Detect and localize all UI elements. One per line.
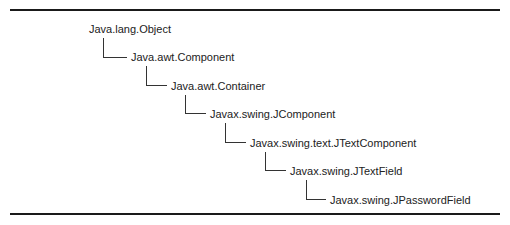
node-javax-swing-jpasswordfield: Javax.swing.JPasswordField — [330, 193, 471, 207]
connector-vertical-5 — [265, 152, 266, 171]
node-java-awt-container: Java.awt.Container — [171, 79, 265, 93]
connector-vertical-1 — [103, 38, 104, 58]
connector-horizontal-3 — [185, 113, 206, 114]
connector-horizontal-6 — [306, 199, 326, 200]
connector-horizontal-2 — [146, 85, 167, 86]
connector-horizontal-4 — [225, 142, 246, 143]
top-rule — [10, 9, 500, 11]
connector-vertical-2 — [146, 66, 147, 86]
node-javax-swing-text-jtextcomponent: Javax.swing.text.JTextComponent — [250, 136, 416, 150]
node-java-awt-component: Java.awt.Component — [131, 50, 234, 64]
node-javax-swing-jcomponent: Javax.swing.JComponent — [210, 107, 335, 121]
connector-vertical-6 — [306, 180, 307, 200]
connector-vertical-4 — [225, 123, 226, 143]
bottom-rule — [10, 213, 500, 215]
connector-vertical-3 — [185, 95, 186, 114]
connector-horizontal-1 — [103, 57, 127, 58]
connector-horizontal-5 — [265, 170, 286, 171]
node-javax-swing-jtextfield: Javax.swing.JTextField — [290, 164, 403, 178]
node-java-lang-object: Java.lang.Object — [89, 22, 171, 36]
